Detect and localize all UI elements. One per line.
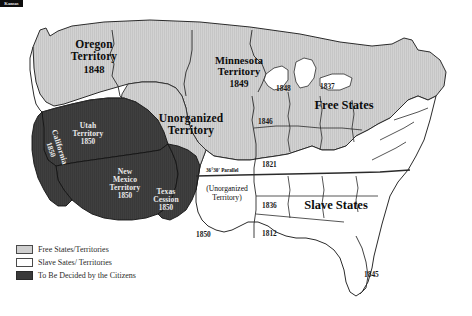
legend-item-free: Free States/Territories <box>16 244 136 255</box>
date-missouri: 1821 <box>262 160 277 169</box>
legend-label-free: Free States/Territories <box>38 245 109 254</box>
legend-label-slave: Slave Sates/ Territories <box>38 258 112 267</box>
legend-swatch-free-icon <box>16 245 33 254</box>
date-wisconsin: 1848 <box>276 84 291 93</box>
legend-item-slave: Slave Sates/ Territories <box>16 257 136 268</box>
legend-swatch-undecided-icon <box>16 271 33 280</box>
date-michigan: 1837 <box>320 82 335 91</box>
date-louisiana: 1812 <box>262 229 277 238</box>
legend-item-undecided: To Be Decided by the Citizens <box>16 270 136 281</box>
date-arkansas: 1836 <box>262 201 277 210</box>
date-iowa: 1846 <box>258 117 273 126</box>
historical-map: Oregon Territory 1848 Minnesota Territor… <box>0 0 472 316</box>
date-texas: 1850 <box>196 230 211 239</box>
date-florida: 1845 <box>364 270 379 279</box>
legend-label-undecided: To Be Decided by the Citizens <box>38 271 136 280</box>
map-legend: Free States/Territories Slave Sates/ Ter… <box>16 244 136 283</box>
legend-swatch-slave-icon <box>16 258 33 267</box>
